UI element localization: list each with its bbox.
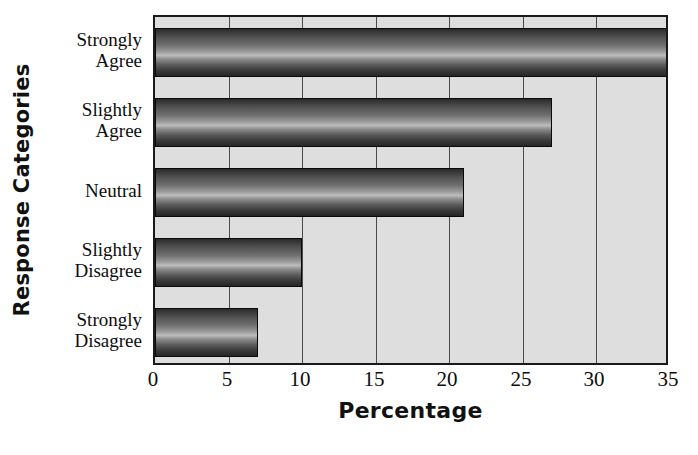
category-label: Strongly Agree [38, 29, 142, 71]
x-tick-label: 5 [222, 367, 233, 392]
category-axis-labels: Strongly AgreeSlightly AgreeNeutralSligh… [44, 15, 148, 365]
x-axis-ticks: 05101520253035 [153, 367, 668, 397]
category-label: Slightly Agree [38, 99, 142, 141]
bar [155, 308, 258, 357]
category-label: Strongly Disagree [38, 309, 142, 351]
x-tick-label: 30 [584, 367, 605, 392]
bar [155, 98, 552, 147]
bar-chart: Response Categories Strongly AgreeSlight… [0, 0, 698, 455]
bar [155, 168, 464, 217]
x-tick-label: 25 [511, 367, 532, 392]
category-label: Neutral [38, 180, 142, 201]
plot-inner [155, 17, 666, 363]
category-label: Slightly Disagree [38, 239, 142, 281]
bar [155, 238, 302, 287]
x-tick-label: 20 [437, 367, 458, 392]
x-tick-label: 35 [658, 367, 679, 392]
x-tick-label: 15 [364, 367, 385, 392]
y-axis-title-label: Response Categories [10, 64, 34, 317]
x-tick-label: 10 [290, 367, 311, 392]
bar [155, 28, 668, 77]
x-tick-label: 0 [148, 367, 159, 392]
x-axis-title: Percentage [153, 398, 668, 423]
plot-area [153, 15, 668, 365]
